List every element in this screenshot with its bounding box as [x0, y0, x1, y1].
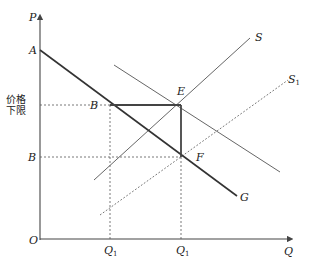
curve-s1-label: S1 [288, 74, 300, 87]
price-floor-label: 价格 下限 [2, 94, 30, 116]
curve-s-label: S [255, 32, 263, 43]
point-f-label: F [196, 152, 204, 163]
point-e-label: E [177, 86, 185, 97]
point-g-label: G [240, 192, 249, 203]
point-b-upper-label: B [90, 100, 98, 111]
origin-label: O [29, 235, 38, 246]
point-a-label: A [29, 45, 37, 56]
x-axis-label: Q [284, 246, 293, 257]
demand-curve-ag [40, 50, 237, 196]
tick-q1-label: Q1 [104, 245, 118, 258]
tick-q2-label: Q1 [176, 245, 190, 258]
y-axis-label: P [29, 12, 36, 23]
supply-curve-s [94, 38, 250, 180]
point-b-lower-label: B [28, 152, 36, 163]
diagram-canvas [0, 0, 312, 268]
supply-curve-s1 [100, 80, 288, 215]
